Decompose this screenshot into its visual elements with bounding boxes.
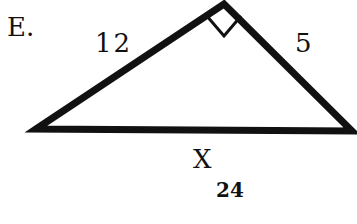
side-label-left-leg: 12 xyxy=(95,30,132,56)
triangle-outline xyxy=(36,4,352,131)
answer-label: 24 xyxy=(216,180,244,200)
side-label-base: X xyxy=(193,146,212,172)
problem-label: E. xyxy=(7,14,34,40)
side-label-right-leg: 5 xyxy=(295,30,312,56)
